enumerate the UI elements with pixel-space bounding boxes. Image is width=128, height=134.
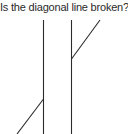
poggendorff-figure <box>0 0 128 134</box>
diagonal-segment-lower <box>17 99 44 134</box>
diagonal-segment-upper <box>72 20 101 59</box>
